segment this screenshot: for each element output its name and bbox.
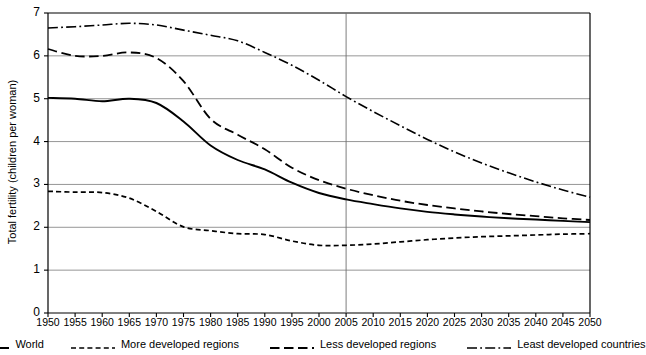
y-tick-label-6: 6 <box>18 48 40 62</box>
series-line-world <box>48 98 590 222</box>
legend-item-less-developed-regions[interactable]: Less developed regions <box>269 338 436 350</box>
x-tick-label-2050: 2050 <box>570 316 610 328</box>
y-tick-label-5: 5 <box>18 91 40 105</box>
legend-swatch-solid-icon <box>0 339 10 349</box>
chart-legend: WorldMore developed regionsLess develope… <box>0 333 610 355</box>
legend-item-world[interactable]: World <box>0 338 44 350</box>
legend-label: Least developed countries <box>517 338 645 350</box>
legend-swatch-dashed-icon <box>269 339 315 349</box>
legend-swatch-dashdot-icon <box>466 339 512 349</box>
legend-item-least-developed-countries[interactable]: Least developed countries <box>466 338 645 350</box>
y-tick-label-3: 3 <box>18 176 40 190</box>
legend-item-more-developed-regions[interactable]: More developed regions <box>70 338 239 350</box>
y-tick-label-2: 2 <box>18 219 40 233</box>
series-line-least-developed-countries <box>48 23 590 197</box>
y-tick-label-4: 4 <box>18 134 40 148</box>
legend-swatch-dotted-icon <box>70 339 116 349</box>
series-line-less-developed-regions <box>48 49 590 220</box>
legend-label: World <box>15 338 44 350</box>
y-tick-label-1: 1 <box>18 262 40 276</box>
legend-label: Less developed regions <box>320 338 436 350</box>
y-tick-label-7: 7 <box>18 5 40 19</box>
legend-label: More developed regions <box>121 338 239 350</box>
